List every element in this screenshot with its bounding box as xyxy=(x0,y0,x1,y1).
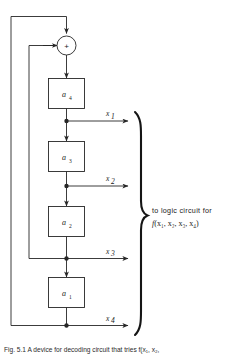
register-a3-subscript: 3 xyxy=(69,158,72,164)
tap-subscript-x2: 2 xyxy=(111,177,115,186)
tap-branch-x4: x 4 xyxy=(67,314,129,326)
tap-branch-x2: x 2 xyxy=(67,174,129,186)
tap-label-x1: x xyxy=(105,109,110,118)
register-a4-subscript: 4 xyxy=(69,95,72,101)
figure-caption: Fig. 5.1 A device for decoding circuit t… xyxy=(4,346,160,354)
tap-subscript-x3: 3 xyxy=(110,249,115,258)
register-a1-subscript: 1 xyxy=(69,294,72,300)
modulo-2-adder: + xyxy=(57,36,76,55)
grouping-brace xyxy=(135,112,148,335)
tap-label-x3: x xyxy=(105,247,110,256)
register-a1: a 1 xyxy=(49,278,85,308)
annotation-function: f(x₁, x₂, x₃, x₄) xyxy=(152,219,199,228)
tap-label-x2: x xyxy=(105,174,110,183)
figure-container: + a 4 x 1 a 3 xyxy=(0,0,233,354)
adder-symbol: + xyxy=(64,42,69,51)
register-a1-label: a xyxy=(62,289,66,298)
register-a2: a 2 xyxy=(49,207,85,237)
register-a3: a 3 xyxy=(49,142,85,172)
register-a3-label: a xyxy=(62,153,66,162)
tap-label-x4: x xyxy=(105,314,110,323)
register-a2-label: a xyxy=(62,218,66,227)
tap-subscript-x4: 4 xyxy=(111,316,115,325)
tap-subscript-x1: 1 xyxy=(111,112,115,121)
tap-branch-x3: x 3 xyxy=(67,247,129,259)
shift-register-diagram: + a 4 x 1 a 3 xyxy=(0,0,233,354)
register-a4-label: a xyxy=(62,90,66,99)
register-a2-subscript: 2 xyxy=(69,223,72,229)
tap-branch-x1: x 1 xyxy=(67,109,129,121)
register-a4: a 4 xyxy=(49,79,85,109)
brace-annotation: to logic circuit for f(x₁, x₂, x₃, x₄) xyxy=(152,206,212,228)
figure-caption-text: Fig. 5.1 A device for decoding circuit t… xyxy=(4,346,160,354)
annotation-line1: to logic circuit for xyxy=(152,206,212,215)
annotation-function-args: (x₁, x₂, x₃, x₄) xyxy=(154,219,199,228)
